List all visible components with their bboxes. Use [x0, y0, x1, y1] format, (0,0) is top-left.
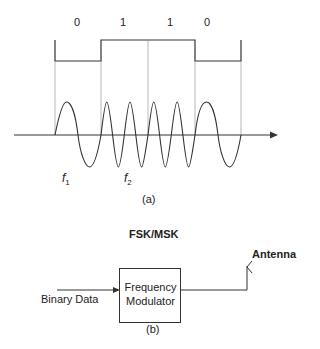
- bit-label-0: 0: [74, 16, 80, 28]
- freq-subscript: 2: [127, 178, 131, 187]
- bit-label-1: 1: [120, 16, 126, 28]
- caption-b: (b): [146, 323, 159, 335]
- bit-boundary-guides: [55, 40, 241, 135]
- diagram-title: FSK/MSK: [129, 228, 179, 240]
- modulator-output-line: [180, 266, 247, 290]
- time-axis-arrow-icon: [270, 132, 278, 139]
- binary-data-label: Binary Data: [41, 293, 98, 305]
- caption-a: (a): [142, 193, 155, 205]
- modulator-label-line2: Modulator: [120, 294, 181, 308]
- freq-label-f2: f2: [124, 171, 132, 187]
- input-arrow-icon: [113, 287, 120, 293]
- modulator-label-line1: Frequency: [120, 280, 181, 294]
- bit-label-2: 1: [167, 16, 173, 28]
- bit-label-3: 0: [204, 16, 210, 28]
- antenna-icon: [247, 261, 252, 273]
- freq-label-f1: f1: [62, 171, 70, 187]
- frequency-modulator-label: Frequency Modulator: [120, 280, 181, 308]
- freq-subscript: 1: [65, 178, 69, 187]
- antenna-label: Antenna: [252, 248, 296, 260]
